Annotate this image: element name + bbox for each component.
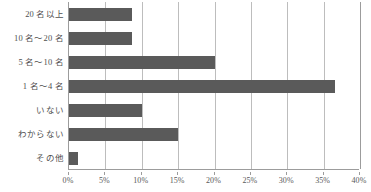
bar-row xyxy=(69,56,359,69)
category-label: 5 名〜10 名 xyxy=(0,57,64,67)
bar-row xyxy=(69,152,359,165)
bar xyxy=(69,128,178,141)
category-axis-labels: 20 名以上 10 名〜20 名 5 名〜10 名 1 名〜4 名 いない わか… xyxy=(0,2,64,170)
tick-label: 35% xyxy=(315,175,330,187)
category-label: 20 名以上 xyxy=(0,9,64,19)
tick-label: 10% xyxy=(133,175,148,187)
bar xyxy=(69,8,132,21)
value-axis-labels: 0%5%10%15%20%25%30%35%40% xyxy=(68,172,359,186)
bar xyxy=(69,152,78,165)
bar-series xyxy=(69,2,359,169)
category-label: いない xyxy=(0,105,64,115)
tick-label: 25% xyxy=(242,175,257,187)
bar xyxy=(69,104,142,117)
bar xyxy=(69,80,335,93)
plot-area xyxy=(68,2,359,170)
tick-label: 40% xyxy=(352,175,367,187)
tick-label: 0% xyxy=(63,175,74,187)
bar-row xyxy=(69,80,359,93)
gridline xyxy=(360,2,361,169)
tick-label: 15% xyxy=(170,175,185,187)
bar xyxy=(69,56,215,69)
bar-row xyxy=(69,104,359,117)
category-label: 10 名〜20 名 xyxy=(0,33,64,43)
tick-label: 5% xyxy=(99,175,110,187)
bar-chart: 20 名以上 10 名〜20 名 5 名〜10 名 1 名〜4 名 いない わか… xyxy=(0,0,371,192)
tick-label: 20% xyxy=(206,175,221,187)
bar-row xyxy=(69,8,359,21)
bar xyxy=(69,32,132,45)
tick-label: 30% xyxy=(279,175,294,187)
category-label: 1 名〜4 名 xyxy=(0,81,64,91)
bar-row xyxy=(69,128,359,141)
category-label: その他 xyxy=(0,153,64,163)
bar-row xyxy=(69,32,359,45)
category-label: わからない xyxy=(0,129,64,139)
